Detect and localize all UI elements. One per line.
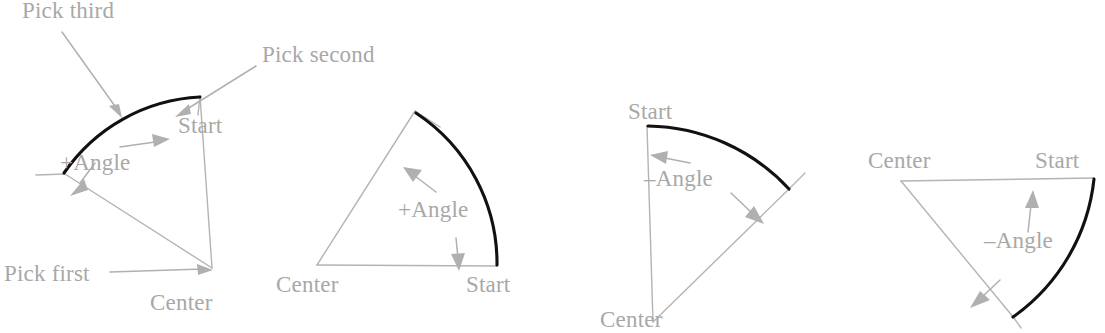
arrowhead-pick-first: [197, 264, 213, 275]
arrowhead-angle-a: [152, 134, 170, 147]
label-angle-p1: +Angle: [60, 150, 130, 175]
label-center-p4: Center: [868, 148, 931, 173]
panel-1-three-pick-positive-angle: Pick third Pick second Start +Angle Pick…: [4, 0, 375, 315]
leader-pick-first: [110, 269, 203, 272]
arrowhead-angle-b: [70, 179, 88, 196]
label-start-p3: Start: [628, 99, 673, 124]
label-pick-first: Pick first: [4, 261, 90, 286]
label-center-p3: Center: [600, 307, 663, 332]
radius-line-start-p2: [317, 265, 497, 266]
radius-line-end-p2: [317, 111, 415, 265]
angle-sweep-line-p2-a: [415, 176, 436, 192]
label-pick-second: Pick second: [262, 42, 375, 67]
panel-3-center-start-negative-angle: Start –Angle Center: [600, 99, 805, 332]
arrowhead-angle-p4-a: [1025, 190, 1039, 208]
arrowhead-pick-third: [109, 104, 122, 118]
radius-line-start-p4: [901, 178, 1094, 181]
arrowhead-angle-p3-a: [650, 151, 668, 164]
label-angle-p4: –Angle: [983, 228, 1053, 253]
angle-sweep-line-p3-a: [665, 158, 690, 163]
arrowhead-angle-p2-b: [451, 253, 465, 271]
panel-2-center-start-positive-angle: +Angle Center Start: [276, 111, 511, 297]
label-angle-p3: –Angle: [643, 166, 713, 191]
label-start-p1: Start: [178, 113, 223, 138]
panel-4-center-start-negative-angle-flat: Center Start –Angle: [868, 148, 1094, 328]
arc-angle-figure: Pick third Pick second Start +Angle Pick…: [0, 0, 1105, 333]
label-center-p2: Center: [276, 272, 339, 297]
label-pick-third: Pick third: [22, 0, 114, 23]
arrowhead-angle-p4-b: [970, 291, 990, 308]
leader-pick-second: [184, 66, 256, 111]
label-angle-p2: +Angle: [398, 197, 468, 222]
label-center-p1: Center: [150, 290, 213, 315]
leader-pick-third: [62, 32, 117, 109]
end-tick-p4: [1014, 318, 1021, 328]
radius-line-end-p3: [653, 188, 790, 322]
angle-sweep-line-p3-b: [731, 193, 752, 213]
label-start-p4: Start: [1035, 148, 1080, 173]
label-start-p2: Start: [466, 272, 511, 297]
end-tick-p3: [790, 173, 805, 188]
figure-canvas: Pick third Pick second Start +Angle Pick…: [0, 0, 1105, 333]
angle-sweep-line-a: [120, 142, 155, 147]
